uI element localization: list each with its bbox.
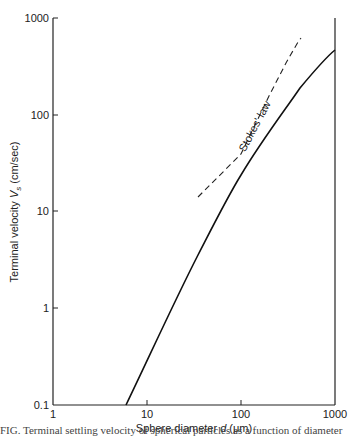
figure-caption: FIG. Terminal settling velocity of spher…	[0, 424, 358, 439]
stokes-law-annotation: Stokes' law	[236, 99, 273, 154]
y-tick-label-1: 1	[43, 302, 49, 314]
y-tick-label-0.1: 0.1	[34, 399, 49, 411]
stokes-law-line	[198, 38, 301, 197]
y-tick-label-1000: 1000	[25, 12, 49, 24]
x-tick-label-1000: 1000	[323, 408, 347, 420]
x-tick-label-1: 1	[50, 408, 56, 420]
y-axis-label: Terminal velocity Vs (cm/sec)	[8, 142, 23, 283]
chart-canvas: 1000 100 10 1 0.1 1 10 100 1000 Sphere d…	[0, 0, 358, 439]
axes	[53, 18, 335, 405]
velocity-curve	[126, 50, 335, 405]
y-tick-label-100: 100	[31, 109, 49, 121]
y-tick-label-10: 10	[37, 205, 49, 217]
x-tick-label-100: 100	[232, 408, 250, 420]
x-tick-label-10: 10	[141, 408, 153, 420]
